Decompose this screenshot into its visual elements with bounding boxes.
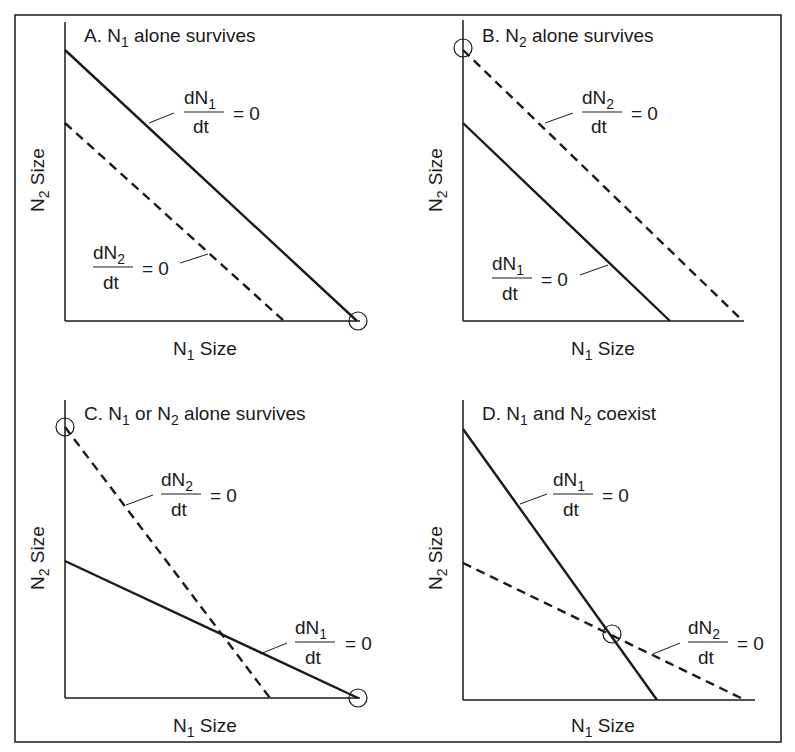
- n2-isocline-dashed: [65, 427, 270, 698]
- leader-line: [126, 495, 153, 505]
- svg-text:= 0: = 0: [602, 485, 629, 506]
- panel-c: C. N1 or N2 alone survives dN2 dt = 0 dN…: [27, 400, 372, 740]
- label-dn1-dt: dN1 dt = 0: [184, 87, 260, 137]
- svg-text:dN2: dN2: [161, 469, 193, 494]
- svg-text:dt: dt: [591, 116, 608, 137]
- svg-text:dt: dt: [171, 499, 188, 520]
- leader-line: [653, 643, 680, 654]
- figure-frame: [15, 15, 781, 742]
- svg-text:dN1: dN1: [295, 617, 327, 642]
- panel-a: A. N1 alone survives dN1 dt = 0 dN2 dt =…: [27, 22, 367, 363]
- svg-text:= 0: = 0: [631, 103, 658, 124]
- equilibrium-circle: [603, 625, 621, 643]
- svg-text:dN1: dN1: [553, 469, 585, 494]
- label-dn1-dt: dN1 dt = 0: [295, 617, 372, 668]
- y-axis-label: N2 Size: [27, 526, 52, 590]
- svg-text:dN1: dN1: [184, 87, 216, 112]
- svg-text:dt: dt: [193, 116, 210, 137]
- x-axis-label: N1 Size: [571, 715, 635, 740]
- leader-line: [520, 494, 547, 504]
- panel-d: D. N1 and N2 coexist dN1 dt = 0 dN2 dt =…: [425, 400, 764, 740]
- label-dn2-dt: dN2 dt = 0: [688, 617, 764, 668]
- svg-text:= 0: = 0: [541, 269, 568, 290]
- leader-line: [149, 113, 174, 123]
- isocline-figure: A. N1 alone survives dN1 dt = 0 dN2 dt =…: [0, 0, 795, 752]
- panel-title: B. N2 alone survives: [482, 25, 653, 50]
- svg-text:dt: dt: [563, 499, 580, 520]
- x-axis-label: N1 Size: [173, 715, 237, 740]
- label-dn2-dt: dN2 dt = 0: [93, 242, 169, 293]
- leader-line: [545, 113, 573, 123]
- svg-text:dN1: dN1: [492, 253, 524, 278]
- leader-line: [580, 265, 608, 275]
- svg-text:= 0: = 0: [210, 485, 237, 506]
- y-axis-label: N2 Size: [27, 148, 52, 212]
- svg-text:dt: dt: [698, 647, 715, 668]
- panel-b: B. N2 alone survives dN2 dt = 0 dN1 dt =…: [425, 20, 744, 363]
- x-axis-label: N1 Size: [173, 338, 237, 363]
- panel-title: D. N1 and N2 coexist: [482, 403, 657, 428]
- svg-text:= 0: = 0: [345, 633, 372, 654]
- svg-text:dN2: dN2: [93, 242, 125, 267]
- svg-text:dt: dt: [502, 283, 519, 304]
- svg-text:dN2: dN2: [688, 617, 720, 642]
- svg-text:= 0: = 0: [233, 103, 260, 124]
- label-dn2-dt: dN2 dt = 0: [582, 87, 658, 137]
- svg-text:dt: dt: [305, 647, 322, 668]
- svg-text:= 0: = 0: [737, 633, 764, 654]
- label-dn2-dt: dN2 dt = 0: [161, 469, 237, 520]
- x-axis-label: N1 Size: [571, 338, 635, 363]
- n1-isocline-solid: [463, 123, 670, 321]
- label-dn1-dt: dN1 dt = 0: [553, 469, 629, 520]
- svg-text:dN2: dN2: [582, 87, 614, 112]
- panel-title: A. N1 alone survives: [84, 25, 255, 50]
- label-dn1-dt: dN1 dt = 0: [492, 253, 568, 304]
- y-axis-label: N2 Size: [425, 526, 450, 590]
- leader-line: [180, 254, 208, 263]
- svg-text:dt: dt: [103, 272, 120, 293]
- svg-text:= 0: = 0: [142, 258, 169, 279]
- panel-title: C. N1 or N2 alone survives: [84, 403, 306, 428]
- leader-line: [260, 643, 287, 654]
- y-axis-label: N2 Size: [425, 148, 450, 212]
